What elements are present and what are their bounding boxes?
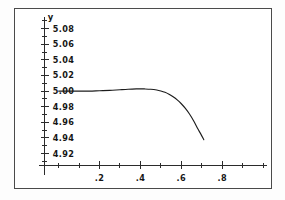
- y-tick-label: 4.94: [53, 133, 75, 143]
- y-tick-label: 4.96: [53, 117, 75, 127]
- x-tick-label: .6: [177, 173, 187, 183]
- y-tick-label: 5.06: [53, 39, 75, 49]
- y-tick-label: 5.08: [53, 24, 75, 34]
- y-tick-label: 4.92: [53, 149, 75, 159]
- figure-frame: 5.085.065.045.025.004.984.964.944.92.2.4…: [14, 8, 272, 189]
- x-tick-label: .4: [136, 173, 146, 183]
- y-tick-label: 4.98: [53, 102, 75, 112]
- y-axis-title: y: [48, 12, 54, 22]
- axis-title-group: y: [48, 12, 54, 22]
- screenshot-root: 5.085.065.045.025.004.984.964.944.92.2.4…: [0, 0, 285, 200]
- data-series-group: [59, 89, 204, 140]
- x-tick-label: .8: [217, 173, 227, 183]
- y-tick-label: 5.02: [53, 70, 75, 80]
- tick-labels-group: 5.085.065.045.025.004.984.964.944.92.2.4…: [53, 24, 227, 183]
- y-tick-label: 5.04: [53, 55, 75, 65]
- plot-area: 5.085.065.045.025.004.984.964.944.92.2.4…: [15, 9, 271, 188]
- plot-canvas: 5.085.065.045.025.004.984.964.944.92.2.4…: [15, 9, 271, 188]
- data-curve-0: [59, 89, 204, 140]
- x-tick-label: .2: [95, 173, 105, 183]
